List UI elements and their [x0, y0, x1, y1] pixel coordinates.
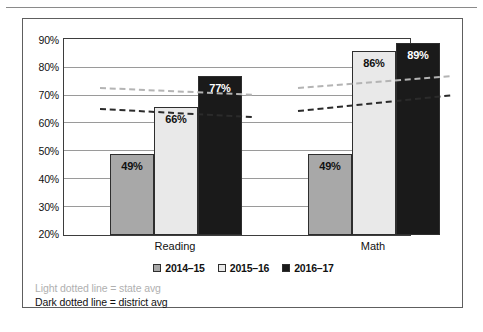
legend-label: 2016–17	[294, 262, 333, 274]
bar-math-2016-17: 89%	[396, 43, 440, 235]
legend-label: 2014–15	[165, 262, 204, 274]
y-axis-tick-50: 50%	[23, 145, 59, 157]
bar-reading-2014-15: 49%	[110, 154, 154, 235]
bar-reading-2015-16: 66%	[154, 107, 198, 235]
bar-math-2015-16: 86%	[352, 51, 396, 235]
chart-footnotes: Light dotted line = state avg Dark dotte…	[35, 281, 435, 309]
chart-figure-box: 20%30%40%50%60%70%80%90% 49%66%77%49%86%…	[22, 18, 463, 308]
bar-math-2014-15: 49%	[308, 154, 352, 235]
bar-value-label: 49%	[111, 160, 153, 172]
legend-label: 2015–16	[230, 262, 269, 274]
legend-swatch-icon	[218, 264, 226, 272]
y-axis-tick-90: 90%	[23, 34, 59, 46]
legend-item-2015-16[interactable]: 2015–16	[218, 262, 269, 274]
plot-area: 49%66%77%49%86%89%	[63, 38, 411, 236]
legend-item-2014-15[interactable]: 2014–15	[153, 262, 204, 274]
bar-reading-2016-17: 77%	[198, 76, 242, 235]
legend-item-2016-17[interactable]: 2016–17	[282, 262, 333, 274]
bar-value-label: 49%	[309, 160, 351, 172]
bar-value-label: 89%	[397, 49, 439, 61]
y-axis-tick-40: 40%	[23, 173, 59, 185]
y-axis-tick-70: 70%	[23, 89, 59, 101]
x-axis-label-math: Math	[287, 240, 459, 252]
x-axis-category-labels: ReadingMath	[63, 240, 411, 258]
y-axis-tick-labels: 20%30%40%50%60%70%80%90%	[23, 38, 59, 236]
y-axis-tick-30: 30%	[23, 201, 59, 213]
legend-swatch-icon	[153, 264, 161, 272]
bar-value-label: 86%	[353, 57, 395, 69]
footnote-district-avg: Dark dotted line = district avg	[35, 295, 435, 309]
x-axis-label-reading: Reading	[89, 240, 261, 252]
y-axis-tick-80: 80%	[23, 61, 59, 73]
top-divider-rule	[6, 7, 477, 8]
chart-plot-wrapper: 20%30%40%50%60%70%80%90% 49%66%77%49%86%…	[23, 19, 464, 309]
chart-legend: 2014–152015–162016–17	[23, 262, 464, 274]
y-axis-tick-20: 20%	[23, 228, 59, 240]
plot-inner: 49%66%77%49%86%89%	[64, 39, 410, 235]
legend-swatch-icon	[282, 264, 290, 272]
y-axis-tick-60: 60%	[23, 117, 59, 129]
footnote-state-avg: Light dotted line = state avg	[35, 281, 435, 295]
